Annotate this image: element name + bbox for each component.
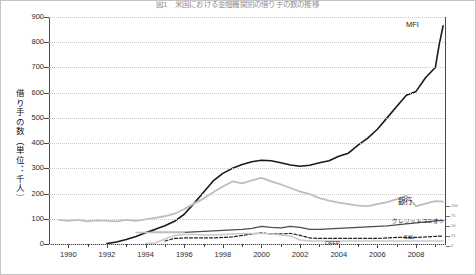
secondary-axis-label: 0 [451,244,453,248]
x-tick-minor [358,244,359,247]
y-tick-label: 300 [18,163,44,172]
x-tick-minor [204,244,205,247]
y-tick [44,168,49,169]
x-tick [416,244,417,248]
y-tick [44,143,49,144]
x-tick-minor [319,244,320,247]
x-tick-label: 1990 [51,250,85,259]
secondary-axis-tick [446,226,450,227]
x-tick [146,244,147,248]
x-tick-label: 2000 [244,250,278,259]
x-tick-label: 2002 [283,250,317,259]
x-tick [68,244,69,248]
secondary-axis-label: 100 [451,204,458,208]
y-tick-label: 400 [18,138,44,147]
x-tick-minor [242,244,243,247]
gridline [49,143,445,144]
series-label-bank: 銀行 [398,195,412,206]
secondary-axis-label: 50 [451,224,455,228]
y-axis-line [49,17,50,245]
series-label-credit-union: クレジットユニオン [392,217,445,225]
secondary-axis-tick [446,216,450,217]
series-label-offp: OFFP [325,240,340,246]
gridline [49,118,445,119]
x-tick-label: 1996 [167,250,201,259]
series-label-mfi: MFI [406,20,419,29]
y-tick [44,17,49,18]
secondary-axis-label: 25 [451,234,455,238]
x-tick-label: 2006 [360,250,394,259]
gridline [49,67,445,68]
y-tick-label: 900 [18,12,44,21]
x-tick-minor [165,244,166,247]
secondary-axis-label: 75 [451,214,455,218]
x-tick [184,244,185,248]
gridline [49,168,445,169]
secondary-axis-tick [446,246,450,247]
x-tick [107,244,108,248]
y-tick [44,93,49,94]
gridline [49,42,445,43]
gridline [49,93,445,94]
x-tick-label: 1994 [129,250,163,259]
gridline [49,17,445,18]
x-tick [223,244,224,248]
y-tick-label: 700 [18,62,44,71]
series-layer [49,17,445,244]
plot-area [49,17,445,244]
series-line-銀行 [59,178,443,221]
x-tick-label: 2008 [399,250,433,259]
y-tick-label: 800 [18,37,44,46]
x-tick [377,244,378,248]
x-tick-minor [88,244,89,247]
series-line-MFI_tail [435,26,443,68]
x-tick [300,244,301,248]
x-tick-minor [126,244,127,247]
y-tick-label: 100 [18,214,44,223]
y-tick-label: 500 [18,113,44,122]
y-tick-label: 600 [18,88,44,97]
x-tick-minor [435,244,436,247]
y-tick [44,42,49,43]
gridline [49,244,445,245]
x-tick-label: 2004 [322,250,356,259]
secondary-axis-tick [446,206,450,207]
x-tick-minor [397,244,398,247]
x-tick-label: 1992 [90,250,124,259]
y-tick [44,244,49,245]
y-tick-label: 200 [18,189,44,198]
chart-title: 図1 米国における金融機関別の借り手の数の推移 [0,0,475,9]
y-tick [44,219,49,220]
gridline [49,194,445,195]
x-tick [261,244,262,248]
y-tick [44,67,49,68]
x-tick-label: 1998 [206,250,240,259]
x-tick-minor [281,244,282,247]
y-tick [44,118,49,119]
secondary-axis-tick [446,236,450,237]
y-tick [44,194,49,195]
series-label-snl: S&L [404,234,414,240]
gridline [49,219,445,220]
y-tick-label: 0 [18,239,44,248]
secondary-axis: 1007550250 [446,206,474,250]
